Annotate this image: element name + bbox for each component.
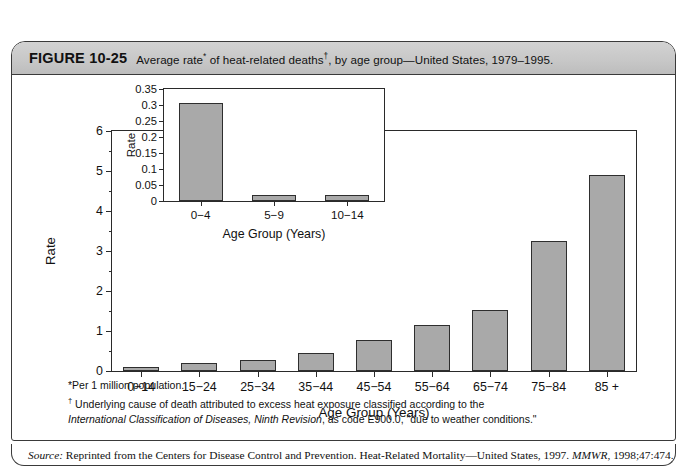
- y-minor-tick-main-5: [109, 151, 113, 152]
- x-tick-label-inset-1: 5−9: [264, 208, 284, 221]
- x-tick-inset-2: [347, 201, 348, 206]
- y-tick-main-6: [106, 131, 112, 132]
- y-tick-label-inset-4: 0.2: [141, 131, 157, 143]
- source-text-after: , 1998;47:474.: [607, 449, 673, 461]
- y-tick-label-main-4: 4: [96, 204, 103, 218]
- x-tick-label-inset-2: 10−14: [331, 208, 364, 221]
- y-tick-label-inset-2: 0.1: [141, 163, 157, 175]
- bar-inset-0: [179, 103, 223, 201]
- y-minor-tick-main-1: [109, 311, 113, 312]
- y-tick-main-4: [106, 211, 112, 212]
- y-tick-label-inset-1: 0.05: [135, 179, 157, 191]
- x-tick-label-inset-0: 0−4: [191, 208, 211, 221]
- x-tick-main-4: [374, 371, 375, 377]
- inset-chart-axes: 00.050.10.150.20.250.30.350−45−910−14: [163, 88, 385, 202]
- figure-caption: Average rate* of heat-related deaths†, b…: [136, 51, 553, 66]
- footnote-line-2: † Underlying cause of death attributed t…: [68, 393, 537, 412]
- x-tick-label-main-8: 85 +: [595, 380, 619, 394]
- x-tick-main-1: [199, 371, 200, 377]
- y-tick-label-inset-0: 0: [151, 195, 157, 207]
- y-tick-main-1: [106, 331, 112, 332]
- y-tick-label-main-1: 1: [96, 324, 103, 338]
- footnote-icd-title: International Classification of Diseases…: [68, 413, 322, 425]
- y-tick-main-3: [106, 251, 112, 252]
- y-tick-main-0: [106, 371, 112, 372]
- figure-frame: FIGURE 10-25 Average rate* of heat-relat…: [11, 41, 676, 441]
- caption-text-2: of heat-related deaths: [206, 52, 323, 65]
- caption-text-3: , by age group—United States, 1979–1995.: [328, 52, 553, 65]
- chart-plot-region: Rate Age Group (Years) 01234560−1415−242…: [12, 75, 675, 441]
- y-tick-main-2: [106, 291, 112, 292]
- caption-text-1: Average rate: [136, 52, 203, 65]
- y-tick-inset-6: [159, 105, 164, 106]
- x-tick-inset-0: [201, 201, 202, 206]
- x-tick-main-3: [316, 371, 317, 377]
- inset-chart-x-axis-title: Age Group (Years): [223, 227, 326, 241]
- bar-main-2: [240, 360, 276, 371]
- figure-footnotes: *Per 1 million population. † Underlying …: [68, 378, 537, 427]
- y-minor-tick-main-3: [109, 231, 113, 232]
- x-tick-main-8: [607, 371, 608, 377]
- y-tick-label-main-2: 2: [96, 284, 103, 298]
- source-label: Source:: [28, 449, 63, 461]
- y-tick-inset-5: [159, 121, 164, 122]
- bar-main-4: [356, 340, 392, 371]
- x-tick-main-0: [141, 371, 142, 377]
- y-tick-label-main-0: 0: [96, 364, 103, 378]
- bar-main-6: [472, 310, 508, 371]
- y-tick-inset-3: [159, 153, 164, 154]
- source-strip: Source: Reprinted from the Centers for D…: [11, 444, 676, 466]
- y-tick-label-inset-3: 0.15: [135, 147, 157, 159]
- x-tick-inset-1: [274, 201, 275, 206]
- footnote-line-2-text: Underlying cause of death attributed to …: [72, 398, 484, 410]
- bar-main-5: [414, 325, 450, 371]
- y-tick-inset-2: [159, 169, 164, 170]
- inset-chart-bars: [164, 89, 384, 201]
- y-tick-label-main-6: 6: [96, 124, 103, 138]
- footnote-line-1: *Per 1 million population.: [68, 378, 537, 393]
- y-tick-inset-1: [159, 185, 164, 186]
- y-minor-tick-main-2: [109, 271, 113, 272]
- y-minor-tick-main-4: [109, 191, 113, 192]
- x-tick-main-2: [258, 371, 259, 377]
- y-tick-label-inset-5: 0.25: [135, 115, 157, 127]
- x-tick-main-6: [490, 371, 491, 377]
- bar-main-7: [531, 241, 567, 371]
- figure-number: FIGURE 10-25: [29, 50, 127, 66]
- figure-header: FIGURE 10-25 Average rate* of heat-relat…: [12, 42, 675, 75]
- x-tick-main-7: [549, 371, 550, 377]
- y-tick-label-inset-7: 0.35: [135, 83, 157, 95]
- y-tick-label-main-5: 5: [96, 164, 103, 178]
- source-text: Source: Reprinted from the Centers for D…: [28, 449, 674, 461]
- y-tick-label-inset-6: 0.3: [141, 99, 157, 111]
- footnote-line-3: International Classification of Diseases…: [68, 412, 537, 427]
- y-tick-inset-7: [159, 89, 164, 90]
- bar-main-3: [298, 353, 334, 371]
- main-chart-y-axis-title: Rate: [43, 237, 58, 265]
- bar-main-1: [181, 363, 217, 371]
- y-tick-main-5: [106, 171, 112, 172]
- source-journal: MMWR: [572, 449, 607, 461]
- x-tick-main-5: [432, 371, 433, 377]
- y-tick-label-main-3: 3: [96, 244, 103, 258]
- footnote-line-3-rest: , as code E900.0, "due to weather condit…: [322, 413, 537, 425]
- source-text-before: Reprinted from the Centers for Disease C…: [63, 449, 572, 461]
- y-tick-inset-0: [159, 201, 164, 202]
- y-tick-inset-4: [159, 137, 164, 138]
- y-minor-tick-main-0: [109, 351, 113, 352]
- bar-main-8: [589, 175, 625, 371]
